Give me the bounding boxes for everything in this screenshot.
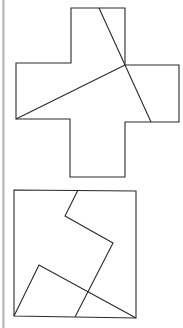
cross-cut-line-2 bbox=[16, 65, 125, 119]
square-cut-line-1 bbox=[65, 190, 113, 317]
dissection-diagram bbox=[0, 0, 183, 328]
cross-panel bbox=[16, 8, 179, 177]
greek-cross-outline bbox=[16, 8, 179, 177]
square-cut-line-2 bbox=[14, 265, 136, 318]
square-panel bbox=[14, 190, 136, 318]
square-outline bbox=[14, 190, 136, 318]
